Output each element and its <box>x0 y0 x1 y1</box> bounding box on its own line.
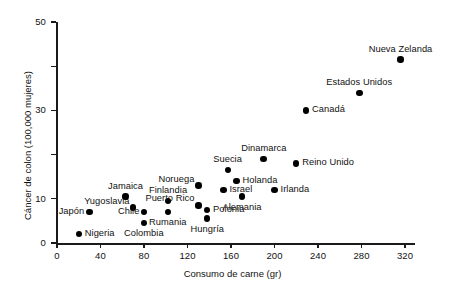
data-point <box>122 193 128 199</box>
data-point <box>303 107 309 113</box>
data-point-label: Puerto Rico <box>145 193 194 203</box>
data-point-label: Noruega <box>158 174 194 184</box>
data-point <box>141 209 147 215</box>
y-tick <box>51 21 56 22</box>
y-axis-line <box>56 22 58 243</box>
data-point <box>225 167 231 173</box>
data-point-label: Estados Unidos <box>326 77 392 87</box>
x-tick-label: 80 <box>124 250 164 261</box>
y-tick <box>51 66 56 67</box>
data-point <box>397 56 403 62</box>
data-point-label: Irlanda <box>281 184 310 194</box>
data-point-label: Suecia <box>213 154 242 164</box>
x-axis-title: Consumo de carne (gr) <box>0 268 465 279</box>
data-point <box>293 160 299 166</box>
data-point <box>141 220 147 226</box>
x-tick <box>187 243 188 248</box>
y-tick <box>51 242 56 243</box>
x-tick-label: 120 <box>168 250 208 261</box>
x-tick <box>404 243 405 248</box>
x-tick <box>100 243 101 248</box>
data-point <box>86 209 92 215</box>
data-point <box>356 90 362 96</box>
y-tick-label: 0 <box>20 237 46 248</box>
data-point-label: Dinamarca <box>241 143 286 153</box>
data-point <box>260 156 266 162</box>
data-point <box>239 193 245 199</box>
data-point <box>220 187 226 193</box>
data-point <box>204 215 210 221</box>
data-point-label: Hungría <box>191 224 224 234</box>
data-point-label: Canadá <box>312 104 345 114</box>
y-axis-title: Cáncer de colon (100,000 mujeres) <box>22 71 33 220</box>
data-point-label: Reino Unido <box>302 157 354 167</box>
x-tick-label: 200 <box>255 250 295 261</box>
x-tick <box>361 243 362 248</box>
data-point-label: Jamaica <box>108 181 143 191</box>
y-tick-label: 50 <box>20 16 46 27</box>
x-tick <box>230 243 231 248</box>
x-tick-label: 160 <box>211 250 251 261</box>
x-tick <box>274 243 275 248</box>
x-tick-label: 240 <box>298 250 338 261</box>
data-point-label: Chile <box>118 206 139 216</box>
scatter-plot: 04080120160200240280320 0103050 NigeriaJ… <box>0 0 465 292</box>
y-tick <box>51 154 56 155</box>
data-point-label: Nigeria <box>85 228 115 238</box>
data-point <box>233 178 239 184</box>
data-point <box>195 202 201 208</box>
data-point <box>195 182 201 188</box>
data-point-label: Alemania <box>222 202 261 212</box>
x-tick-label: 40 <box>81 250 121 261</box>
x-tick-label: 280 <box>342 250 382 261</box>
y-tick <box>51 198 56 199</box>
y-tick <box>51 110 56 111</box>
data-point-label: Nueva Zelanda <box>369 44 433 54</box>
chart-page: 04080120160200240280320 0103050 NigeriaJ… <box>0 0 465 292</box>
data-point <box>271 187 277 193</box>
data-point-label: Rumania <box>149 217 187 227</box>
data-point-label: Colombia <box>124 228 164 238</box>
data-point-label: Holanda <box>242 175 277 185</box>
x-tick <box>317 243 318 248</box>
x-tick-label: 320 <box>385 250 425 261</box>
data-point <box>204 207 210 213</box>
data-point-label: Japón <box>59 206 85 216</box>
data-point <box>76 231 82 237</box>
x-tick-label: 0 <box>37 250 77 261</box>
data-point <box>165 209 171 215</box>
x-tick <box>56 243 57 248</box>
x-tick <box>143 243 144 248</box>
